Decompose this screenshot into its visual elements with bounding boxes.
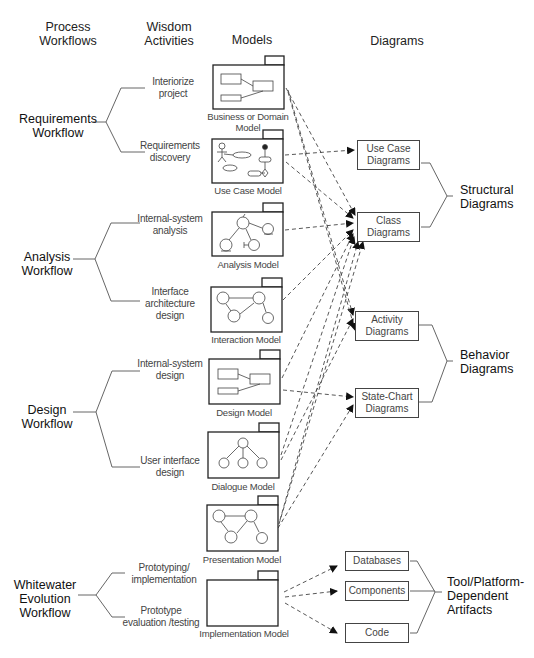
- activity-internal-system-analysis: Internal-system analysis: [134, 213, 206, 237]
- model-use-case: Use Case Model: [205, 185, 291, 196]
- diagram-use-case: Use Case Diagrams: [357, 140, 420, 170]
- artifact-databases: Databases: [345, 551, 409, 571]
- activity-prototype-evaluation-testing: Prototype evaluation /testing: [116, 605, 206, 629]
- header-diagrams: Diagrams: [362, 34, 432, 48]
- activity-requirements-discovery: Requirements discovery: [136, 140, 204, 164]
- model-presentation: Presentation Model: [199, 554, 285, 565]
- model-dialogue: Dialogue Model: [200, 481, 286, 492]
- activity-internal-system-design: Internal-system design: [134, 358, 206, 382]
- diagram-class: Class Diagrams: [357, 212, 420, 242]
- artifact-components: Components: [345, 581, 409, 601]
- model-interaction: Interaction Model: [203, 334, 289, 345]
- model-design: Design Model: [201, 407, 287, 418]
- activity-interface-architecture-design: Interface architecture design: [134, 286, 206, 322]
- header-models: Models: [222, 33, 282, 47]
- workflow-requirements: Requirements Workflow: [16, 112, 100, 140]
- workflow-design: Design Workflow: [20, 403, 74, 431]
- workflow-analysis: Analysis Workflow: [20, 250, 74, 278]
- group-structural-diagrams: Structural Diagrams: [460, 183, 514, 211]
- model-implementation: Implementation Model: [194, 628, 294, 639]
- workflow-whitewater-evolution: Whitewater Evolution Workflow: [10, 578, 80, 620]
- activity-user-interface-design: User interface design: [134, 455, 206, 479]
- group-behavior-diagrams: Behavior Diagrams: [460, 348, 514, 376]
- model-analysis: Analysis Model: [205, 259, 291, 270]
- diagram-activity: Activity Diagrams: [355, 311, 419, 341]
- group-tool-platform-artifacts: Tool/Platform- Dependent Artifacts: [447, 575, 524, 617]
- header-process-workflows: Process Workflows: [28, 20, 108, 48]
- artifact-code: Code: [345, 623, 409, 643]
- diagram-state-chart: State-Chart Diagrams: [355, 388, 419, 418]
- activity-interiorize-project: Interiorize project: [140, 76, 206, 100]
- model-business-domain: Business or Domain Model: [205, 111, 291, 133]
- activity-prototyping-implementation: Prototyping/ implementation: [124, 562, 204, 586]
- header-wisdom-activities: Wisdom Activities: [134, 20, 204, 48]
